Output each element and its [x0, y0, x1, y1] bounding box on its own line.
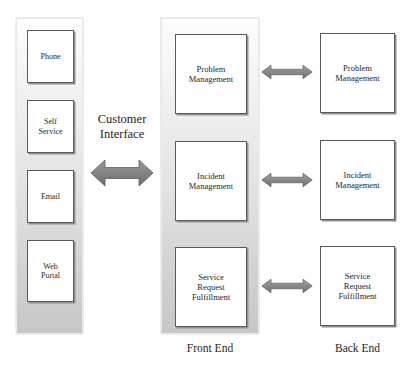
front-end-label-incident-management: Incident Management — [187, 171, 235, 191]
front-end-box-incident-management[interactable]: Incident Management — [175, 141, 247, 221]
front-end-label-service-request-fulfillment: Service Request Fulfillment — [190, 272, 232, 302]
customer-interface-label: Customer Interface — [78, 112, 166, 142]
channel-label-email: Email — [39, 192, 62, 201]
front-end-panel: Problem Management Incident Management S… — [161, 18, 259, 334]
front-end-box-service-request-fulfillment[interactable]: Service Request Fulfillment — [175, 247, 247, 327]
channel-box-self-service[interactable]: Self Service — [27, 100, 74, 153]
service-request-double-arrow-icon — [261, 278, 313, 294]
diagram-canvas: Phone Self Service Email Web Portal Cust… — [0, 0, 413, 375]
channel-box-web-portal[interactable]: Web Portal — [27, 240, 74, 302]
customer-interface-double-arrow-icon — [90, 158, 154, 188]
incident-management-double-arrow-icon — [261, 172, 313, 188]
back-end-box-problem-management[interactable]: Problem Management — [320, 33, 395, 113]
channel-label-web-portal: Web Portal — [39, 262, 62, 281]
front-end-label-problem-management: Problem Management — [187, 64, 235, 84]
back-end-label-incident-management: Incident Management — [333, 170, 381, 190]
channel-label-phone: Phone — [39, 52, 63, 61]
front-end-caption: Front End — [161, 342, 259, 354]
front-end-box-problem-management[interactable]: Problem Management — [175, 34, 247, 114]
back-end-label-service-request-fulfillment: Service Request Fulfillment — [336, 271, 378, 301]
problem-management-double-arrow-icon — [261, 64, 313, 80]
channel-box-email[interactable]: Email — [27, 170, 74, 223]
back-end-box-incident-management[interactable]: Incident Management — [320, 140, 395, 220]
back-end-caption: Back End — [320, 342, 395, 354]
back-end-label-problem-management: Problem Management — [333, 63, 381, 83]
back-end-box-service-request-fulfillment[interactable]: Service Request Fulfillment — [320, 246, 395, 326]
channel-label-self-service: Self Service — [37, 117, 65, 136]
customer-channels-panel: Phone Self Service Email Web Portal — [16, 18, 83, 334]
channel-box-phone[interactable]: Phone — [27, 30, 74, 83]
